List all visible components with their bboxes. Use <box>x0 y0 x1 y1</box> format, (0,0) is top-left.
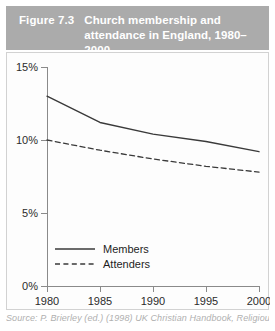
legend-label-members: Members <box>103 243 149 255</box>
y-tick-label: 10% <box>16 134 38 146</box>
x-tick-label: 1980 <box>35 295 59 307</box>
chart-legend: MembersAttenders <box>55 243 151 270</box>
line-chart: 0%5%10%15% 19801985199019952000 MembersA… <box>7 53 270 311</box>
x-axis-ticks: 19801985199019952000 <box>35 286 270 307</box>
x-tick-label: 1990 <box>141 295 165 307</box>
series-line-attenders <box>47 140 259 172</box>
y-tick-label: 15% <box>16 61 38 73</box>
series-lines <box>47 96 259 172</box>
x-tick-label: 2000 <box>247 295 270 307</box>
figure-number: Figure 7.3 <box>19 13 74 28</box>
series-line-members <box>47 96 259 151</box>
x-tick-label: 1985 <box>88 295 112 307</box>
x-tick-label: 1995 <box>194 295 218 307</box>
y-tick-label: 5% <box>22 207 38 219</box>
chart-panel: 0%5%10%15% 19801985199019952000 MembersA… <box>6 52 269 310</box>
y-tick-label: 0% <box>22 280 38 292</box>
source-caption: Source: P. Brierley (ed.) (1998) UK Chri… <box>6 313 269 323</box>
legend-label-attenders: Attenders <box>103 258 151 270</box>
y-axis-ticks: 0%5%10%15% <box>16 61 47 292</box>
figure-container: Figure 7.3 Church membership and attenda… <box>0 0 275 331</box>
figure-title-band: Figure 7.3 Church membership and attenda… <box>6 6 269 50</box>
